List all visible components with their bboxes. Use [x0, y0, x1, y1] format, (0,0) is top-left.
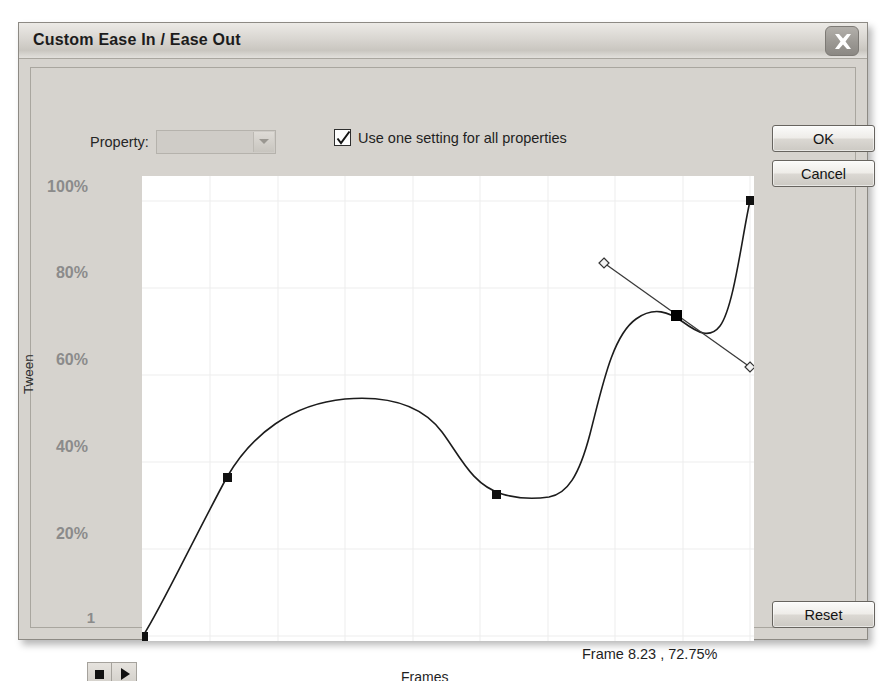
checkbox-box — [334, 129, 351, 146]
chevron-down-icon — [253, 132, 274, 152]
reset-button[interactable]: Reset — [772, 601, 875, 628]
cancel-button[interactable]: Cancel — [772, 160, 875, 187]
control-point-1 — [142, 632, 148, 641]
stop-icon[interactable] — [87, 662, 112, 681]
y-tick-20: 20% — [26, 525, 88, 543]
dialog-titlebar: Custom Ease In / Ease Out — [19, 23, 867, 59]
custom-ease-dialog: Custom Ease In / Ease Out Property: — [18, 22, 868, 640]
control-point-4-selected — [671, 310, 682, 321]
frame-readout: Frame 8.23 , 72.75% — [582, 646, 717, 662]
play-icon[interactable] — [112, 662, 137, 681]
screen: Custom Ease In / Ease Out Property: — [0, 0, 886, 681]
control-point-3 — [492, 490, 501, 499]
y-tick-100: 100% — [26, 178, 88, 196]
control-point-5 — [746, 196, 754, 205]
y-tick-80: 80% — [26, 264, 88, 282]
control-point-2 — [223, 473, 232, 482]
y-tick-60: 60% — [26, 351, 88, 369]
curve-canvas[interactable] — [142, 176, 754, 641]
close-icon[interactable] — [825, 26, 859, 56]
property-label: Property: — [90, 134, 149, 150]
checkbox-label: Use one setting for all properties — [358, 130, 567, 146]
dialog-title: Custom Ease In / Ease Out — [33, 31, 241, 49]
x-axis-title: Frames — [401, 669, 448, 681]
y-tick-40: 40% — [26, 438, 88, 456]
ok-button[interactable]: OK — [772, 125, 875, 152]
ease-curve-plot[interactable] — [142, 176, 754, 641]
use-one-setting-checkbox[interactable]: Use one setting for all properties — [334, 129, 567, 146]
x-tick-1: 1 — [79, 609, 103, 626]
transport-controls — [87, 662, 137, 681]
dialog-body: Property: Use one setting for all proper… — [30, 67, 856, 628]
property-select[interactable] — [156, 130, 276, 154]
